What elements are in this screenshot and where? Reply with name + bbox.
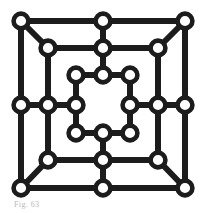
graph-node: [69, 98, 84, 113]
graph-node: [69, 68, 84, 83]
graph-node: [96, 68, 111, 83]
graph-node: [14, 14, 29, 29]
graph-node: [96, 153, 111, 168]
graph-node: [178, 181, 193, 196]
graph-node: [96, 41, 111, 56]
graph-node: [178, 98, 193, 113]
graph-node: [151, 153, 166, 168]
network-diagram: [0, 0, 206, 213]
graph-node: [41, 98, 56, 113]
graph-node: [151, 41, 166, 56]
figure-container: Fig. 63: [0, 0, 206, 213]
graph-node: [123, 126, 138, 141]
graph-node: [123, 68, 138, 83]
graph-node: [96, 181, 111, 196]
graph-node: [96, 14, 111, 29]
graph-node: [96, 126, 111, 141]
graph-node: [69, 126, 84, 141]
graph-node: [123, 98, 138, 113]
graph-node: [41, 153, 56, 168]
graph-node: [151, 98, 166, 113]
graph-node: [178, 14, 193, 29]
graph-node: [41, 41, 56, 56]
graph-node: [14, 181, 29, 196]
figure-caption: Fig. 63: [14, 200, 39, 210]
graph-node: [14, 98, 29, 113]
